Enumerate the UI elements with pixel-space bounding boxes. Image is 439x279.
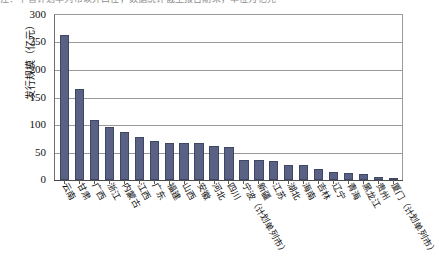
bar xyxy=(75,89,84,180)
bar xyxy=(284,165,293,180)
x-label-slot: 河北 xyxy=(207,184,222,279)
bar-slot xyxy=(177,14,192,180)
x-label-slot: 甘肃 xyxy=(72,184,87,279)
x-label-slot: 浙江 xyxy=(102,184,117,279)
x-label-slot: 内蒙古 xyxy=(117,184,132,279)
bar-slot xyxy=(147,14,162,180)
x-label-slot: 江苏 xyxy=(266,184,281,279)
bar-slot xyxy=(102,14,117,180)
cropped-note-text: 注：不含计划单列市以外口径，数据统计截至报告期末，单位为亿元 xyxy=(0,0,407,6)
bar xyxy=(90,120,99,180)
y-tick-label: 300 xyxy=(0,9,46,20)
bar-slot xyxy=(192,14,207,180)
x-label-slot: 福建 xyxy=(162,184,177,279)
x-label-slot: 江西 xyxy=(132,184,147,279)
x-label-slot: 山西 xyxy=(177,184,192,279)
bar xyxy=(135,137,144,180)
bar-slot xyxy=(132,14,147,180)
bar xyxy=(60,35,69,180)
bar xyxy=(314,169,323,180)
bar-slot xyxy=(251,14,266,180)
x-label-slot: 黑龙江 xyxy=(356,184,371,279)
bar-slot xyxy=(311,14,326,180)
bar xyxy=(224,147,233,180)
y-tick-label: 50 xyxy=(0,147,46,158)
bar xyxy=(165,143,174,180)
x-label-slot: 宁波（计划单列市） xyxy=(236,184,251,279)
x-label-slot: 广东 xyxy=(147,184,162,279)
x-label-slot: 辽宁 xyxy=(326,184,341,279)
bar xyxy=(239,160,248,180)
bar xyxy=(254,160,263,180)
bar-slot xyxy=(326,14,341,180)
bar-slot xyxy=(72,14,87,180)
bar-slot xyxy=(87,14,102,180)
bar xyxy=(299,165,308,180)
bar-slot xyxy=(221,14,236,180)
bar xyxy=(209,146,218,180)
bar-slot xyxy=(207,14,222,180)
x-label-slot: 广西 xyxy=(87,184,102,279)
x-label-slot: 厦门（计划单列市） xyxy=(386,184,401,279)
bar-slot xyxy=(371,14,386,180)
bar xyxy=(150,141,159,180)
x-label-slot: 四川 xyxy=(221,184,236,279)
bar-slot xyxy=(162,14,177,180)
bar-series xyxy=(55,14,403,180)
x-label-slot: 湖北 xyxy=(281,184,296,279)
x-label-slot: 云南 xyxy=(57,184,72,279)
bar-slot xyxy=(341,14,356,180)
bar-slot xyxy=(281,14,296,180)
bar-slot xyxy=(296,14,311,180)
cropped-note-label: 注：不含计划单列市以外口径，数据统计截至报告期末，单位为亿元 xyxy=(0,0,407,4)
x-axis-label: 厦门（计划单列市） xyxy=(390,182,438,257)
x-label-slot: 贵州 xyxy=(371,184,386,279)
x-label-slot: 新疆 xyxy=(251,184,266,279)
bar xyxy=(329,172,338,180)
x-label-slot: 青海 xyxy=(341,184,356,279)
bar-slot xyxy=(356,14,371,180)
bar-slot xyxy=(386,14,401,180)
bar-slot xyxy=(266,14,281,180)
bar xyxy=(269,161,278,180)
bar xyxy=(105,127,114,180)
bar xyxy=(194,143,203,180)
bar xyxy=(344,173,353,180)
y-tick-label: 100 xyxy=(0,119,46,130)
y-tick-label: 0 xyxy=(0,174,46,185)
bar-slot xyxy=(236,14,251,180)
x-axis-labels: 云南甘肃广西浙江内蒙古江西广东福建山西安徽河北四川宁波（计划单列市）新疆江苏湖北… xyxy=(55,184,403,279)
y-tick-label: 200 xyxy=(0,64,46,75)
x-label-slot: 吉林 xyxy=(311,184,326,279)
bar xyxy=(179,143,188,180)
bar xyxy=(120,132,129,180)
y-tick-label: 150 xyxy=(0,92,46,103)
bar-slot xyxy=(57,14,72,180)
x-label-slot: 安徽 xyxy=(192,184,207,279)
x-label-slot: 海南 xyxy=(296,184,311,279)
bar-slot xyxy=(117,14,132,180)
y-tick-label: 250 xyxy=(0,36,46,47)
